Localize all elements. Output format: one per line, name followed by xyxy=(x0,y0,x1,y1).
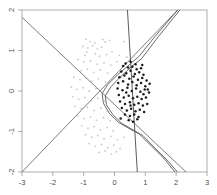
data-point xyxy=(127,95,130,98)
data-point xyxy=(98,78,100,80)
data-point xyxy=(77,58,79,60)
data-point xyxy=(81,125,83,127)
data-point xyxy=(133,104,136,107)
data-point xyxy=(77,115,79,117)
data-point xyxy=(101,144,103,146)
data-point xyxy=(110,64,112,66)
data-point xyxy=(101,46,103,48)
data-point xyxy=(148,82,151,85)
data-point xyxy=(139,108,142,111)
data-point xyxy=(94,42,96,44)
data-point xyxy=(87,127,89,129)
data-point xyxy=(139,91,142,94)
y-tick-label: 0 xyxy=(7,89,16,93)
data-point xyxy=(90,116,92,118)
data-point xyxy=(142,74,145,77)
data-point xyxy=(135,87,138,90)
data-point xyxy=(86,68,88,70)
data-point xyxy=(80,70,82,72)
y-axis-tick-labels: -2-1012 xyxy=(7,8,16,175)
data-point xyxy=(143,111,146,114)
data-point xyxy=(110,79,112,81)
data-point xyxy=(116,87,119,90)
data-point xyxy=(88,143,90,145)
data-point xyxy=(102,39,104,41)
data-point xyxy=(72,96,74,98)
data-point xyxy=(141,77,144,80)
data-point xyxy=(99,69,101,71)
data-point xyxy=(75,67,77,69)
x-tick-label: 1 xyxy=(143,178,147,187)
data-point xyxy=(104,101,106,103)
data-point xyxy=(94,53,96,55)
plot-frame xyxy=(22,10,207,172)
data-point xyxy=(129,70,132,73)
data-point xyxy=(93,109,95,111)
data-point xyxy=(119,148,121,150)
data-point xyxy=(85,77,87,79)
y-tick-label: -1 xyxy=(7,128,16,135)
data-point xyxy=(76,88,78,90)
data-point xyxy=(111,51,113,53)
y-tick-label: -2 xyxy=(7,169,16,176)
data-point xyxy=(99,55,101,57)
x-tick-label: 3 xyxy=(205,178,209,187)
data-point xyxy=(106,54,108,56)
data-point xyxy=(90,100,92,102)
data-point xyxy=(96,119,98,121)
data-point xyxy=(134,110,137,113)
data-point xyxy=(145,96,148,99)
data-point xyxy=(131,81,134,84)
data-point xyxy=(91,136,93,138)
data-point xyxy=(129,104,132,107)
data-point xyxy=(126,87,129,90)
data-point xyxy=(100,107,102,109)
data-point xyxy=(93,71,95,73)
data-point xyxy=(103,138,105,140)
data-point xyxy=(83,118,85,120)
data-point xyxy=(82,46,84,48)
data-point xyxy=(106,127,108,129)
x-tick-label: 2 xyxy=(174,178,178,187)
data-point xyxy=(113,144,115,146)
data-point xyxy=(95,88,97,90)
data-point xyxy=(128,78,131,81)
data-point xyxy=(119,117,122,120)
data-point xyxy=(133,113,136,116)
data-point xyxy=(109,120,111,122)
data-point xyxy=(122,65,125,68)
data-point xyxy=(78,98,80,100)
data-point xyxy=(143,88,146,91)
data-point xyxy=(135,84,138,87)
data-point xyxy=(124,113,127,116)
x-axis-ticks xyxy=(22,172,207,176)
data-point xyxy=(123,41,125,43)
data-point xyxy=(135,68,138,71)
data-point xyxy=(124,103,127,106)
data-point xyxy=(82,87,84,89)
data-point xyxy=(99,129,101,131)
data-point xyxy=(127,83,130,86)
data-point xyxy=(79,79,81,81)
data-point xyxy=(148,91,151,94)
data-point xyxy=(136,95,139,98)
data-point xyxy=(125,91,128,94)
data-point xyxy=(112,130,114,132)
data-point xyxy=(124,62,127,65)
data-point xyxy=(121,89,124,92)
data-point xyxy=(119,100,122,103)
data-point xyxy=(117,82,120,85)
data-point xyxy=(121,107,124,110)
data-point xyxy=(80,108,82,110)
data-point xyxy=(134,73,137,76)
data-point xyxy=(136,118,139,121)
data-point xyxy=(131,65,134,68)
data-point xyxy=(116,61,118,63)
data-point xyxy=(123,96,126,99)
data-point xyxy=(86,106,88,108)
data-point xyxy=(106,110,108,112)
data-point xyxy=(98,152,100,154)
data-point xyxy=(132,75,135,78)
data-point xyxy=(123,136,125,138)
data-point xyxy=(118,76,121,79)
